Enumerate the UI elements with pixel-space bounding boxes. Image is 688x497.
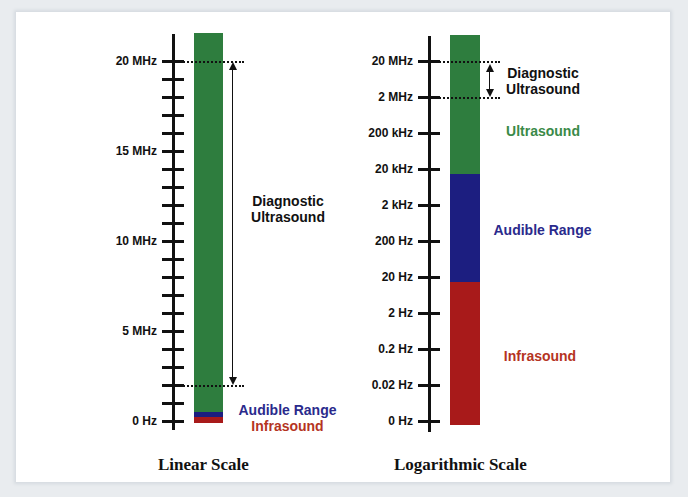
- linear-tick-mark: [162, 240, 184, 243]
- linear-tick-mark: [162, 420, 184, 423]
- linear-tick-mark: [162, 114, 184, 117]
- log-tick-mark: [418, 204, 440, 207]
- linear-tick-mark: [162, 402, 184, 405]
- linear-tick-mark: [162, 366, 184, 369]
- log-ultrasound-label: Ultrasound: [493, 123, 593, 139]
- linear-tick-mark: [162, 258, 184, 261]
- log-tick-label: 2 MHz: [323, 90, 413, 104]
- log-audible-bar: [450, 174, 480, 282]
- log-infrasound-label: Infrasound: [485, 348, 595, 364]
- linear-tick-mark: [162, 276, 184, 279]
- log-tick-label: 200 kHz: [323, 126, 413, 140]
- linear-tick-label: 15 MHz: [67, 144, 157, 158]
- linear-axis: [172, 34, 175, 430]
- linear-2mhz-guide: [176, 385, 244, 387]
- linear-diagnostic-range-line: [232, 66, 233, 380]
- log-tick-label: 0.02 Hz: [323, 378, 413, 392]
- linear-ultrasound-bar: [194, 33, 223, 412]
- log-ultrasound-bar: [450, 35, 480, 174]
- linear-tick-mark: [162, 168, 184, 171]
- log-tick-label: 0 Hz: [323, 414, 413, 428]
- log-audible-label: Audible Range: [485, 222, 600, 238]
- linear-tick-mark: [162, 330, 184, 333]
- log-diagnostic-line2: Ultrasound: [493, 81, 593, 97]
- linear-tick-mark: [162, 222, 184, 225]
- linear-tick-label: 10 MHz: [67, 234, 157, 248]
- log-caption: Logarithmic Scale: [394, 455, 527, 475]
- log-tick-label: 20 kHz: [323, 162, 413, 176]
- linear-tick-mark: [162, 186, 184, 189]
- log-infrasound-bar: [450, 282, 480, 425]
- linear-tick-label: 0 Hz: [67, 414, 157, 428]
- log-2mhz-guide: [432, 97, 500, 99]
- linear-tick-mark: [162, 204, 184, 207]
- linear-tick-label: 5 MHz: [67, 324, 157, 338]
- log-tick-mark: [418, 384, 440, 387]
- linear-caption: Linear Scale: [158, 455, 249, 475]
- linear-tick-mark: [162, 294, 184, 297]
- linear-tick-mark: [162, 96, 184, 99]
- log-tick-label: 2 Hz: [323, 306, 413, 320]
- log-tick-mark: [418, 168, 440, 171]
- linear-infrasound-bar: [194, 417, 223, 423]
- arrow-up-icon: [229, 62, 237, 70]
- linear-tick-mark: [162, 312, 184, 315]
- log-tick-mark: [418, 348, 440, 351]
- log-20mhz-guide: [432, 61, 500, 63]
- linear-tick-label: 20 MHz: [67, 54, 157, 68]
- linear-tick-mark: [162, 150, 184, 153]
- arrow-down-icon: [229, 377, 237, 385]
- linear-tick-mark: [162, 132, 184, 135]
- log-tick-label: 20 Hz: [323, 270, 413, 284]
- log-diagnostic-line1: Diagnostic: [493, 65, 593, 81]
- log-tick-label: 2 kHz: [323, 198, 413, 212]
- log-tick-label: 0.2 Hz: [323, 342, 413, 356]
- log-tick-mark: [418, 132, 440, 135]
- log-tick-mark: [418, 420, 440, 423]
- log-tick-mark: [418, 276, 440, 279]
- log-tick-label: 20 MHz: [323, 54, 413, 68]
- linear-tick-mark: [162, 348, 184, 351]
- log-diagnostic-label: Diagnostic Ultrasound: [493, 65, 593, 97]
- log-tick-label: 200 Hz: [323, 234, 413, 248]
- log-tick-mark: [418, 312, 440, 315]
- log-tick-mark: [418, 240, 440, 243]
- linear-tick-mark: [162, 78, 184, 81]
